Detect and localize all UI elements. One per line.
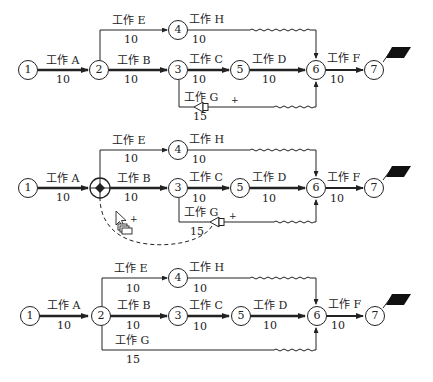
work-f-label: 工作 F [328,299,361,311]
drag-handle-plus: + [229,210,237,222]
node-6[interactable]: 6 [306,60,326,80]
drag-handle-plus: + [231,94,239,106]
work-e-label: 工作 E [114,263,148,275]
work-h-label: 工作 H [189,262,224,274]
work-b-duration: 10 [124,192,138,204]
node-6[interactable]: 6 [306,178,326,198]
work-c-label: 工作 C [189,54,223,66]
work-a-label: 工作 A [46,173,79,185]
work-e-duration: 10 [124,153,138,165]
work-c-duration: 10 [192,193,206,205]
work-f-duration: 10 [331,320,345,332]
work-a-label: 工作 A [47,300,80,312]
work-a-label: 工作 A [46,55,79,67]
work-b-label: 工作 B [117,300,151,312]
node-5[interactable]: 5 [230,60,250,80]
work-g-duration: 15 [193,111,207,123]
work-a-duration: 10 [57,320,71,332]
finish-flag-icon [383,47,411,62]
work-g-label: 工作 G [184,207,218,219]
work-b-label: 工作 B [117,55,151,67]
node-3[interactable]: 3 [168,178,188,198]
work-g-duration: 15 [190,226,204,238]
work-b-duration: 10 [124,74,138,86]
work-h-label: 工作 H [189,14,224,26]
node-3[interactable]: 3 [168,60,188,80]
work-c-duration: 10 [192,74,206,86]
work-c-label: 工作 C [189,172,223,184]
node-1[interactable]: 1 [18,178,38,198]
node-6[interactable]: 6 [307,306,327,326]
finish-flag-icon [383,166,411,180]
work-h-duration: 10 [193,283,207,295]
node-4[interactable]: 4 [168,268,188,288]
node-7[interactable]: 7 [364,178,384,198]
work-e-label: 工作 E [112,135,146,147]
node-3[interactable]: 3 [168,306,188,326]
work-b-duration: 10 [126,320,140,332]
node-1[interactable]: 1 [18,60,38,80]
node-7[interactable]: 7 [364,60,384,80]
cursor-plus: + [130,213,138,225]
work-d-label: 工作 D [253,300,287,312]
work-g-label: 工作 G [184,92,218,104]
node-5[interactable]: 5 [231,306,251,326]
work-e-duration: 10 [126,283,140,295]
node-2-drop-target[interactable] [90,178,110,198]
work-b-label: 工作 B [117,173,151,185]
diagram-dragging [38,149,411,245]
node-4[interactable]: 4 [168,20,188,40]
work-h-duration: 10 [192,34,206,46]
work-a-duration: 10 [56,192,70,204]
work-h-duration: 10 [192,154,206,166]
node-1[interactable]: 1 [20,306,40,326]
node-7[interactable]: 7 [365,306,385,326]
work-g-duration: 15 [126,354,140,366]
work-d-label: 工作 D [252,54,286,66]
work-c-duration: 10 [193,321,207,333]
node-5[interactable]: 5 [230,178,250,198]
work-e-label: 工作 E [112,15,146,27]
work-f-duration: 10 [330,193,344,205]
work-e-duration: 10 [124,34,138,46]
work-f-duration: 10 [330,74,344,86]
work-d-label: 工作 D [252,172,286,184]
work-g-label: 工作 G [115,335,149,347]
work-d-duration: 10 [262,193,276,205]
work-f-label: 工作 F [327,53,360,65]
work-a-duration: 10 [56,74,70,86]
work-f-label: 工作 F [327,172,360,184]
node-2[interactable]: 2 [91,306,111,326]
drag-copy-icon [118,224,132,234]
work-d-duration: 10 [263,320,277,332]
finish-flag-icon [383,294,411,308]
work-d-duration: 10 [262,74,276,86]
work-c-label: 工作 C [189,300,223,312]
work-h-label: 工作 H [189,134,224,146]
node-2[interactable]: 2 [89,60,109,80]
node-4[interactable]: 4 [168,140,188,160]
